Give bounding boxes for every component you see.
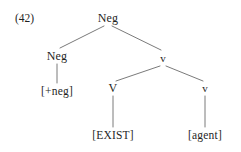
node-little-v-top: v xyxy=(160,53,166,64)
node-root-neg: Neg xyxy=(98,12,119,24)
branch-root-to-little_v_top xyxy=(112,26,161,50)
terminal-agent: [agent] xyxy=(188,130,222,142)
syntax-tree-figure: (42) Neg Neg [+neg] v V v [EXIST] [agent… xyxy=(0,0,241,152)
branch-little_v_top-to-little_v_low xyxy=(166,66,203,81)
terminal-exist: [EXIST] xyxy=(92,130,134,142)
node-big-v: V xyxy=(109,82,118,94)
branch-little_v_top-to-big_v xyxy=(116,66,160,81)
node-neg-left: Neg xyxy=(47,50,68,62)
branch-root-to-neg_left xyxy=(60,26,104,48)
node-little-v-low: v xyxy=(202,83,208,94)
terminal-neg-feature: [+neg] xyxy=(41,86,73,98)
